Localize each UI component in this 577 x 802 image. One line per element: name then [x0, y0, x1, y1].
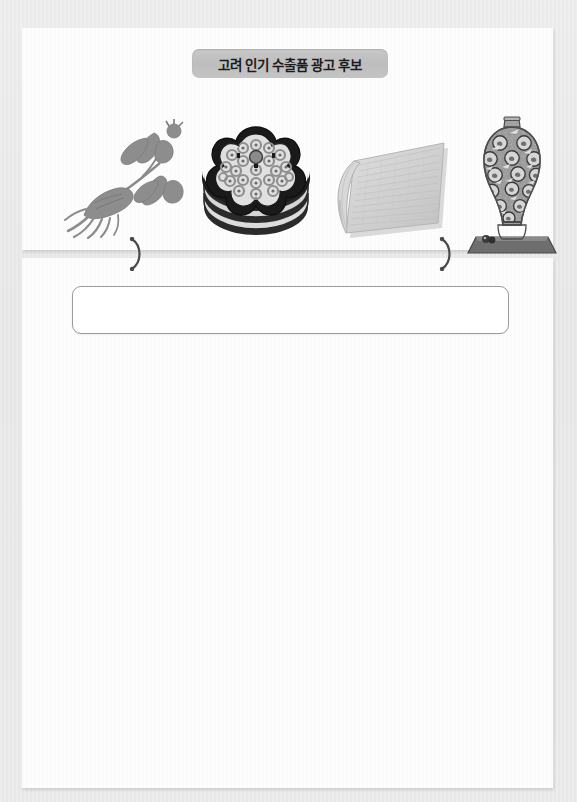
brace-mark-right — [436, 237, 458, 271]
answer-box[interactable] — [72, 286, 509, 334]
title-banner: 고려 인기 수출품 광고 후보 — [192, 49, 388, 78]
hanji-paper-illustration — [332, 137, 454, 241]
brace-mark-left — [126, 237, 148, 271]
title-text: 고려 인기 수출품 광고 후보 — [218, 54, 362, 74]
celadon-vase-illustration — [462, 113, 562, 261]
ginseng-illustration — [62, 119, 192, 239]
mother-of-pearl-lacquerware-illustration — [192, 121, 320, 241]
blank-work-area[interactable] — [34, 350, 541, 775]
illustration-row — [44, 113, 575, 263]
answer-input[interactable] — [73, 287, 508, 333]
